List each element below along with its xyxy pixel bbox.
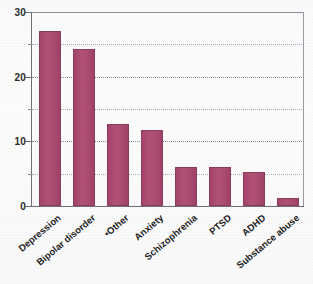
plot-frame-right	[303, 12, 304, 207]
bar	[107, 124, 129, 206]
bar	[277, 198, 299, 206]
y-axis-tick-label: 30	[2, 7, 26, 18]
y-axis-tick-label: 10	[2, 136, 26, 147]
y-tick-minor	[28, 109, 32, 110]
gridline-minor	[32, 44, 304, 45]
x-axis-tick-label: ADHD	[239, 212, 267, 238]
y-tick-major	[25, 206, 32, 207]
y-axis-tick-label: 0	[2, 201, 26, 212]
bar	[243, 172, 265, 206]
x-axis-line	[31, 206, 304, 207]
y-tick-minor	[28, 174, 32, 175]
x-axis-tick-label: Substance abuse	[234, 212, 301, 271]
y-tick-major	[25, 12, 32, 13]
bar	[209, 167, 231, 206]
bar	[39, 31, 61, 206]
y-tick-major	[25, 141, 32, 142]
plot-frame-top	[32, 12, 304, 13]
y-tick-major	[25, 77, 32, 78]
bar	[175, 167, 197, 206]
x-axis-tick-label: •Other	[102, 212, 131, 239]
x-axis-tick-label: Bipolar disorder	[34, 212, 97, 268]
bar	[141, 130, 163, 206]
x-axis-tick-label: PTSD	[207, 212, 233, 237]
y-axis-tick-label: 20	[2, 71, 26, 82]
y-tick-minor	[28, 44, 32, 45]
bar-chart: 0102030 DepressionBipolar disorder•Other…	[0, 0, 313, 284]
bar	[73, 49, 95, 206]
